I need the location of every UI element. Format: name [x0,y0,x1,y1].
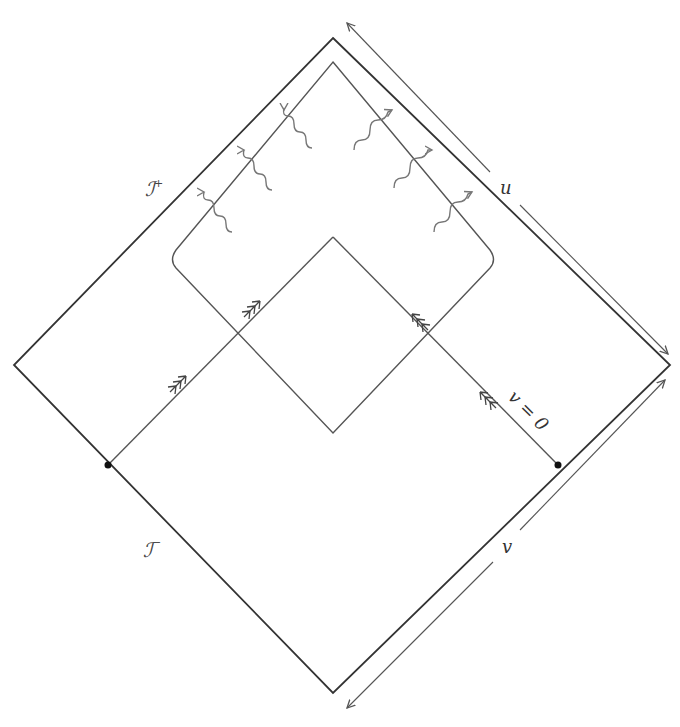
v-axis-label: v [502,536,512,557]
u-axis-arrow-down [520,205,668,354]
right-null-ray [333,237,558,465]
right-ray-arrows-icon [412,314,498,410]
wavy-rays-right [354,110,472,232]
left-ray-arrows-icon [168,301,260,394]
scri-minus-label: ℐ− [143,536,161,562]
left-point [105,462,112,469]
right-point [555,462,562,469]
u-axis-label: u [500,177,512,198]
u-axis-arrow-up [347,23,490,172]
wavy-rays-left [204,108,313,232]
v-axis-arrow-up [520,380,665,530]
v-axis-arrow-down [347,562,493,708]
outer-diamond [14,38,670,693]
inner-region [173,62,494,433]
scri-plus-label: ℐ+ [145,177,163,201]
penrose-diagram: ℐ+ ℐ− u v v = 0 [0,0,680,727]
v-zero-label: v = 0 [504,386,553,435]
left-null-ray [108,237,333,465]
